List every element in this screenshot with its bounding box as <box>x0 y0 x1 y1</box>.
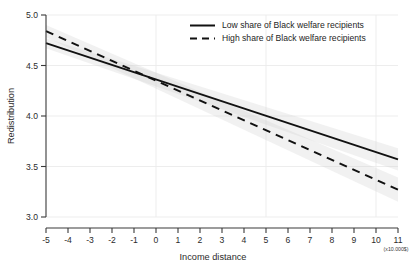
x-tick-label--5: -5 <box>42 235 50 245</box>
ci-band-high-share <box>46 25 398 202</box>
series-line-low-share <box>46 43 398 159</box>
y-axis: 5.0 4.5 4.0 3.5 3.0 Redistribution <box>6 10 46 222</box>
x-tick-label-9: 9 <box>352 235 357 245</box>
x-tick-label--4: -4 <box>64 235 72 245</box>
x-tick-label-8: 8 <box>330 235 335 245</box>
x-axis-title: Income distance <box>180 252 247 262</box>
x-tick-label-2: 2 <box>198 235 203 245</box>
x-tick-label-10: 10 <box>371 235 381 245</box>
x-tick-label-3: 3 <box>220 235 225 245</box>
x-tick-label-1: 1 <box>176 235 181 245</box>
x-axis-unit-note: (x10.000$) <box>384 246 409 252</box>
x-tick-label-7: 7 <box>308 235 313 245</box>
x-axis: -5 -4 -3 -2 -1 0 1 2 3 4 5 6 7 8 9 10 11… <box>42 228 408 262</box>
y-axis-title: Redistribution <box>6 88 16 144</box>
legend: Low share of Black welfare recipients Hi… <box>190 20 366 43</box>
y-tick-label-3.5: 3.5 <box>26 162 38 172</box>
x-tick-label--3: -3 <box>86 235 94 245</box>
y-tick-label-3.0: 3.0 <box>26 212 38 222</box>
regression-line-chart: 5.0 4.5 4.0 3.5 3.0 Redistribution <box>0 0 420 265</box>
confidence-bands <box>46 25 398 202</box>
legend-label-high-share: High share of Black welfare recipients <box>222 33 366 43</box>
y-tick-label-4.0: 4.0 <box>26 111 38 121</box>
chart-canvas: 5.0 4.5 4.0 3.5 3.0 Redistribution <box>0 0 420 265</box>
legend-label-low-share: Low share of Black welfare recipients <box>222 20 364 30</box>
y-tick-label-4.5: 4.5 <box>26 61 38 71</box>
x-tick-label-11: 11 <box>394 235 403 245</box>
x-tick-label--2: -2 <box>108 235 116 245</box>
y-tick-label-5.0: 5.0 <box>26 10 38 20</box>
x-tick-label-4: 4 <box>242 235 247 245</box>
x-tick-label-6: 6 <box>286 235 291 245</box>
x-tick-label-0: 0 <box>154 235 159 245</box>
x-tick-label-5: 5 <box>264 235 269 245</box>
x-tick-label--1: -1 <box>130 235 138 245</box>
